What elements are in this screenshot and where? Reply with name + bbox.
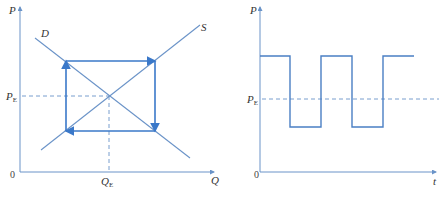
- price-oscillation-line: [260, 56, 414, 127]
- left-origin-label: 0: [10, 169, 15, 180]
- supply-label: S: [201, 21, 207, 33]
- left-price-equilibrium-label: PE: [5, 90, 17, 104]
- right-y-axis-label: P: [249, 4, 257, 16]
- demand-label: D: [40, 27, 49, 39]
- left-x-axis-label: Q: [211, 174, 219, 186]
- diagram-canvas: P 0 Q D S PE QE P 0 t PE: [0, 0, 439, 197]
- left-figure: P 0 Q D S PE QE: [5, 4, 219, 189]
- quantity-equilibrium-label: QE: [101, 175, 113, 189]
- right-origin-label: 0: [254, 169, 259, 180]
- demand-curve: [35, 38, 190, 158]
- right-price-equilibrium-label: PE: [246, 93, 258, 107]
- right-figure: P 0 t PE: [246, 4, 439, 187]
- left-y-axis-label: P: [8, 4, 16, 16]
- right-x-axis-label: t: [433, 175, 437, 187]
